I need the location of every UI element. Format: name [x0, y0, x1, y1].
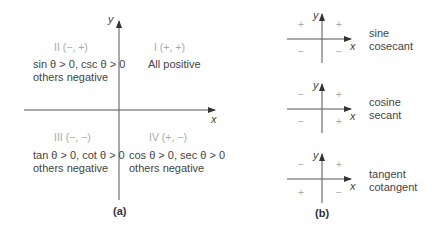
sign-q3: −: [298, 116, 304, 127]
function-names-cosine: cosine secant: [369, 96, 401, 122]
sign-q4: −: [336, 46, 342, 57]
x-axis-label: x: [211, 113, 217, 125]
y-axis-label: y: [108, 13, 114, 25]
sign-q1: +: [336, 89, 342, 100]
quadrant-i-label: I (+, +): [154, 41, 185, 53]
x-axis-label: x: [350, 180, 356, 192]
y-axis-label: y: [313, 79, 319, 91]
sign-q2: −: [298, 159, 304, 170]
quadrant-iii-label: III (−, −): [54, 131, 91, 143]
quadrant-i-text: All positive: [148, 58, 201, 71]
y-axis-label: y: [313, 149, 319, 161]
quadrant-ii-label: II (−, +): [54, 41, 88, 53]
sign-q3: +: [298, 187, 304, 198]
sign-q1: +: [336, 159, 342, 170]
sign-q1: +: [336, 19, 342, 30]
x-axis-label: x: [350, 40, 356, 52]
sign-q3: −: [298, 46, 304, 57]
function-names-sine: sine cosecant: [369, 27, 413, 53]
caption-b: (b): [315, 207, 329, 219]
sign-q2: +: [298, 19, 304, 30]
x-axis-label: x: [350, 110, 356, 122]
sign-q4: −: [336, 187, 342, 198]
sign-q4: +: [336, 116, 342, 127]
quadrant-iv-label: IV (+, −): [149, 131, 187, 143]
quadrant-iii-text: tan θ > 0, cot θ > 0 others negative: [33, 149, 125, 175]
y-axis-label: y: [313, 9, 319, 21]
function-names-tangent: tangent cotangent: [369, 168, 417, 194]
sign-q2: −: [298, 89, 304, 100]
caption-a: (a): [113, 205, 126, 217]
quadrant-ii-text: sin θ > 0, csc θ > 0 others negative: [33, 58, 125, 84]
quadrant-iv-text: cos θ > 0, sec θ > 0 others negative: [129, 149, 225, 175]
